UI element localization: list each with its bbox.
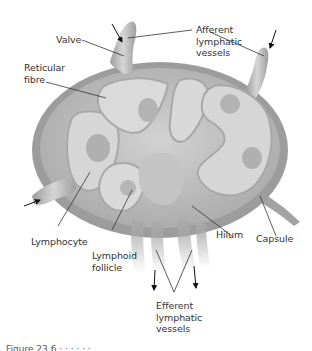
arrow-efferent-left-icon: [154, 270, 155, 290]
arrow-afferent-right-icon: [270, 30, 276, 48]
lymph-node-diagram: Valve Afferent lymphatic vessels Reticul…: [0, 0, 312, 351]
follicle-center-4: [242, 147, 262, 169]
label-afferent-vessels: Afferent lymphatic vessels: [196, 24, 242, 59]
label-reticular-fibre: Reticular fibre: [24, 62, 65, 85]
lymph-node-illustration: [0, 0, 312, 351]
afferent-vessel-right: [246, 47, 268, 98]
figure-caption-clipped: Figure 23.6 · · · · · ·: [6, 344, 91, 351]
label-capsule: Capsule: [256, 233, 293, 245]
afferent-vessel-left: [110, 22, 136, 74]
label-efferent-vessels: Efferent lymphatic vessels: [156, 300, 202, 335]
follicle-center-2: [138, 98, 158, 122]
follicle-center-5: [120, 180, 136, 196]
label-lymphoid-follicle: Lymphoid follicle: [92, 250, 137, 273]
label-hilum: Hilum: [216, 229, 243, 241]
follicle-center-1: [86, 134, 110, 162]
label-lymphocyte: Lymphocyte: [31, 236, 88, 248]
follicle-center-3: [220, 94, 240, 114]
arrow-afferent-left-icon: [112, 24, 122, 42]
label-valve: Valve: [56, 34, 81, 46]
